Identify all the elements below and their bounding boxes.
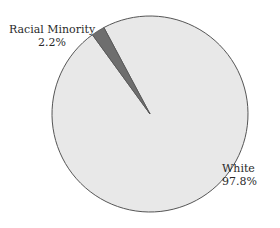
label-white-value: 97.8% [222, 175, 278, 188]
label-racial-minority-value: 2.2% [0, 36, 104, 49]
label-racial-minority: Racial Minority 2.2% [0, 23, 104, 49]
label-white-name: White [222, 162, 278, 175]
label-racial-minority-name: Racial Minority [0, 23, 104, 36]
label-white: White 97.8% [222, 162, 278, 188]
